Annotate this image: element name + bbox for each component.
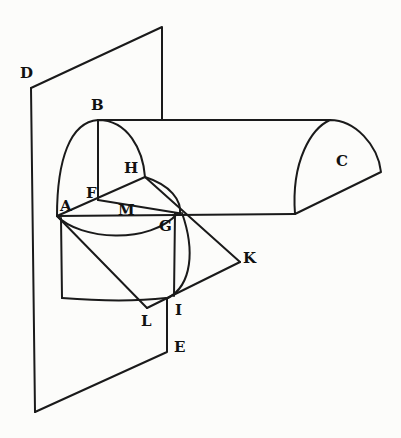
- label-e: E: [174, 338, 185, 356]
- label-m: M: [118, 201, 135, 219]
- label-c: C: [336, 152, 348, 170]
- label-a: A: [59, 197, 72, 215]
- label-d: D: [20, 64, 33, 82]
- point-labels: D B C H F A M G K L I E: [20, 64, 348, 356]
- label-k: K: [243, 249, 257, 267]
- plane-d: [31, 27, 167, 412]
- label-b: B: [91, 96, 104, 114]
- label-g: G: [159, 217, 172, 235]
- label-l: L: [141, 312, 152, 330]
- label-i: I: [175, 301, 182, 319]
- label-f: F: [86, 184, 97, 202]
- geometric-diagram: D B C H F A M G K L I E: [0, 0, 401, 438]
- label-h: H: [124, 159, 138, 177]
